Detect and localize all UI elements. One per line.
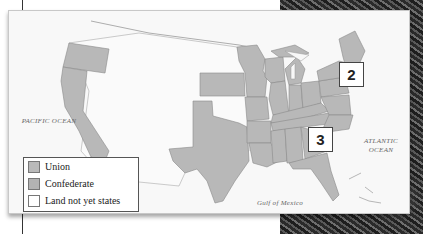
legend-label: Union [45, 161, 70, 172]
callout-2: 2 [339, 62, 364, 87]
legend-item-territory: Land not yet states [24, 192, 138, 209]
legend-item-union: Union [24, 158, 138, 175]
legend-item-confederate: Confederate [24, 175, 138, 192]
union-swatch-icon [28, 161, 40, 173]
legend-label: Land not yet states [45, 195, 120, 206]
map-legend: Union Confederate Land not yet states [23, 157, 139, 212]
civil-war-map: PACIFIC OCEAN ATLANTIC OCEAN Gulf of Mex… [8, 10, 410, 214]
callout-3: 3 [308, 127, 333, 152]
atlantic-ocean-label: ATLANTIC OCEAN [357, 137, 405, 155]
gulf-of-mexico-label: Gulf of Mexico [245, 199, 315, 208]
legend-label: Confederate [45, 178, 94, 189]
confederate-swatch-icon [28, 178, 40, 190]
territory-swatch-icon [28, 195, 40, 207]
pacific-ocean-label: PACIFIC OCEAN [19, 117, 79, 126]
